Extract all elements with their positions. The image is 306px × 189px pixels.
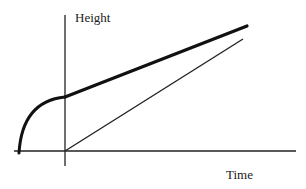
thin-line-from-origin [65,39,243,151]
thick-curve-linear-segment [65,26,247,97]
height-time-diagram: Height Time [0,0,306,189]
thick-curve-initial-rise [19,97,65,153]
y-axis-label: Height [75,10,111,25]
x-axis-label: Time [226,167,253,182]
